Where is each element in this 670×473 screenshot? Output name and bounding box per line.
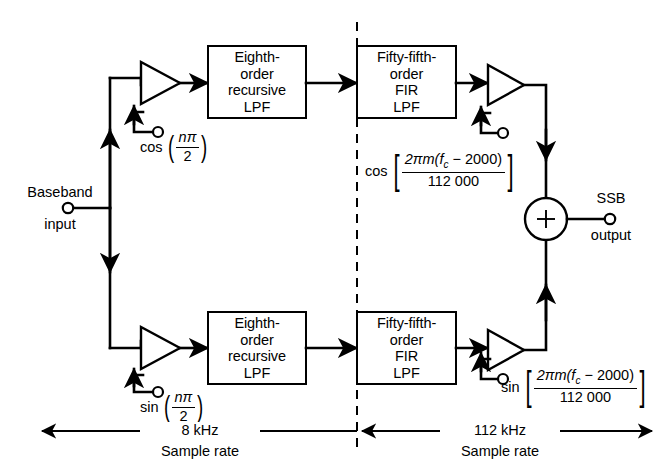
bracket-open-bottom-right: [: [525, 368, 531, 405]
sample-rate-right-value: 112 kHz: [440, 422, 560, 438]
carrier-numerator-top-left: nπ: [176, 130, 200, 148]
carrier-fraction-top-right: 2πm(fc − 2000) 112 000: [402, 152, 505, 189]
bracket-open-top-right: [: [393, 152, 399, 189]
carrier-fraction-bottom-right: 2πm(fc − 2000) 112 000: [534, 368, 637, 405]
ssb-output-label-line1: SSB: [575, 190, 647, 206]
carrier-expression-top-right: cos [ 2πm(fc − 2000) 112 000 ]: [365, 152, 516, 189]
mixer-top-left-carrier-stub: [134, 106, 155, 132]
carrier-fraction-bottom-left: nπ 2: [172, 390, 196, 424]
block-label-iir-top: Eighth- order recursive LPF: [208, 49, 306, 115]
input-wire-group: [75, 78, 141, 348]
wire-top-mixer-to-summer: [524, 85, 546, 199]
carrier-terminal-top-right[interactable]: [498, 128, 508, 138]
mixer-bottom-left-triangle[interactable]: [141, 327, 180, 369]
block-label-iir-bottom: Eighth- order recursive LPF: [208, 315, 306, 381]
sample-rate-left-value: 8 kHz: [140, 422, 260, 438]
ssb-output-terminal[interactable]: [605, 214, 615, 224]
mixer-bottom-right-triangle[interactable]: [488, 330, 524, 370]
sample-rate-right-caption: Sample rate: [428, 443, 572, 459]
block-label-fir-top: Fifty-fifth- order FIR LPF: [357, 49, 456, 115]
carrier-fn-bottom-left: sin: [140, 399, 159, 415]
carrier-fn-bottom-right: sin: [501, 379, 520, 395]
carrier-denominator-top-right: 112 000: [425, 173, 482, 190]
bracket-close-bottom-right: ]: [640, 368, 646, 405]
carrier-numerator-top-right: 2πm(fc − 2000): [402, 152, 505, 173]
carrier-expression-top-left: cos ( nπ 2 ): [140, 130, 209, 164]
mixer-top-left-triangle[interactable]: [141, 62, 180, 104]
carrier-numerator-bottom-right: 2πm(fc − 2000): [534, 368, 637, 389]
carrier-expression-bottom-left: sin ( nπ 2 ): [140, 390, 205, 424]
carrier-num-a-bottom-right: 2πm: [537, 367, 567, 383]
paren-open-bottom-left: (: [163, 392, 169, 422]
carrier-num-c-top-right: − 2000): [448, 151, 502, 167]
bracket-close-top-right: ]: [508, 152, 514, 189]
carrier-num-a-top-right: 2πm: [405, 151, 435, 167]
block-label-fir-bottom: Fifty-fifth- order FIR LPF: [357, 315, 456, 381]
carrier-numerator-bottom-left: nπ: [172, 390, 196, 408]
paren-close-bottom-left: ): [197, 392, 203, 422]
sample-rate-left-caption: Sample rate: [128, 443, 272, 459]
carrier-denominator-bottom-right: 112 000: [557, 389, 614, 406]
baseband-input-terminal[interactable]: [63, 203, 73, 213]
carrier-expression-bottom-right: sin [ 2πm(fc − 2000) 112 000 ]: [501, 368, 648, 405]
paren-open-top-left: (: [167, 132, 173, 162]
mixer-top-right-triangle[interactable]: [488, 65, 524, 105]
baseband-input-label-line1: Baseband: [10, 184, 110, 200]
mixer-bottom-left-carrier-stub: [134, 369, 155, 392]
ssb-modulator-diagram: Baseband input SSB output Eighth- order …: [0, 0, 670, 473]
carrier-fn-top-left: cos: [140, 139, 163, 155]
mixer-top-right-carrier-stub: [481, 107, 500, 133]
baseband-input-label-line2: input: [10, 216, 110, 232]
ssb-output-label-line2: output: [575, 227, 647, 243]
carrier-denominator-top-left: 2: [180, 148, 194, 165]
carrier-fn-top-right: cos: [365, 163, 388, 179]
wire-bottom-mixer-to-summer: [524, 240, 546, 350]
carrier-fraction-top-left: nπ 2: [176, 130, 200, 164]
paren-close-top-left: ): [201, 132, 207, 162]
carrier-num-c-bottom-right: − 2000): [580, 367, 634, 383]
